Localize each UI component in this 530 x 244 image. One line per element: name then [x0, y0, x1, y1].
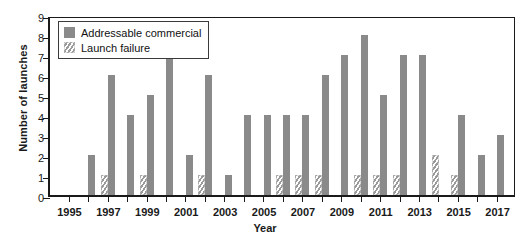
x-axis-tick	[88, 195, 89, 202]
y-axis-tick	[43, 158, 50, 159]
bar-addressable-commercial-2008	[322, 75, 329, 195]
x-axis-tick	[69, 195, 70, 202]
x-axis-tick	[497, 195, 498, 202]
y-axis-tick	[43, 58, 50, 59]
bar-launch-failure-2015	[451, 175, 458, 195]
bar-launch-failure-2006	[276, 175, 283, 195]
x-axis-tick	[147, 195, 148, 202]
y-axis-tick-label: 2	[38, 152, 44, 164]
x-axis-title: Year	[0, 222, 530, 234]
x-axis-tick-label: 1999	[135, 206, 159, 218]
y-axis-tick-label: 5	[38, 92, 44, 104]
x-axis-tick	[263, 195, 264, 202]
x-axis-tick	[341, 195, 342, 202]
bar-launch-failure-1999	[140, 175, 147, 195]
x-axis-tick	[361, 195, 362, 202]
bar-addressable-commercial-1997	[108, 75, 115, 195]
y-axis-tick	[43, 38, 50, 39]
x-axis-tick-label: 1995	[57, 206, 81, 218]
y-axis-tick	[43, 198, 50, 199]
x-axis-tick-label: 2013	[407, 206, 431, 218]
bar-launch-failure-2014	[432, 155, 439, 195]
x-axis-tick	[127, 195, 128, 202]
legend-item-addressable-commercial: Addressable commercial	[64, 25, 201, 40]
x-axis-tick-label: 2009	[330, 206, 354, 218]
x-axis-tick-label: 2011	[369, 206, 393, 218]
y-axis-tick-label: 3	[38, 132, 44, 144]
chart-legend: Addressable commercial Launch failure	[58, 21, 209, 59]
y-axis-tick	[43, 178, 50, 179]
bar-addressable-commercial-2002	[205, 75, 212, 195]
y-axis-tick-label: 6	[38, 72, 44, 84]
bar-addressable-commercial-2004	[244, 115, 251, 195]
x-axis-tick	[438, 195, 439, 202]
bar-addressable-commercial-2010	[361, 35, 368, 195]
bar-addressable-commercial-2009	[341, 55, 348, 195]
x-axis-tick	[380, 195, 381, 202]
legend-label: Launch failure	[81, 42, 150, 54]
x-axis-tick-label: 2001	[174, 206, 198, 218]
y-axis-tick	[43, 18, 50, 19]
bar-addressable-commercial-2005	[264, 115, 271, 195]
y-axis-tick-label: 7	[38, 52, 44, 64]
bar-launch-failure-2007	[295, 175, 302, 195]
bar-launch-failure-2010	[354, 175, 361, 195]
bar-addressable-commercial-2016	[478, 155, 485, 195]
x-axis-tick	[302, 195, 303, 202]
x-axis-tick-label: 2015	[446, 206, 470, 218]
x-axis-tick	[400, 195, 401, 202]
y-axis-tick-label: 0	[38, 192, 44, 204]
x-axis-tick	[458, 195, 459, 202]
bar-addressable-commercial-1999	[147, 95, 154, 195]
y-axis-tick-label: 9	[38, 12, 44, 24]
bar-addressable-commercial-1998	[127, 115, 134, 195]
x-axis-tick	[477, 195, 478, 202]
x-axis-tick	[224, 195, 225, 202]
bar-launch-failure-2012	[393, 175, 400, 195]
x-axis-tick-label: 1997	[96, 206, 120, 218]
legend-label: Addressable commercial	[81, 27, 201, 39]
y-axis-tick-label: 1	[38, 172, 44, 184]
bar-addressable-commercial-1996	[88, 155, 95, 195]
bar-addressable-commercial-2001	[186, 155, 193, 195]
bar-chart: Number of launches 012345678919951997199…	[0, 0, 530, 244]
x-axis-tick	[185, 195, 186, 202]
bar-addressable-commercial-2011	[380, 95, 387, 195]
x-axis-tick	[108, 195, 109, 202]
legend-swatch-solid-icon	[64, 27, 75, 38]
x-axis-tick-label: 2003	[213, 206, 237, 218]
bar-addressable-commercial-2013	[419, 55, 426, 195]
bar-addressable-commercial-2000	[166, 55, 173, 195]
y-axis-tick	[43, 138, 50, 139]
y-axis-tick-label: 4	[38, 112, 44, 124]
y-axis-tick	[43, 118, 50, 119]
x-axis-tick-label: 2007	[291, 206, 315, 218]
x-axis-tick	[283, 195, 284, 202]
bar-launch-failure-1997	[101, 175, 108, 195]
y-axis-tick	[43, 78, 50, 79]
y-axis-tick	[43, 98, 50, 99]
legend-item-launch-failure: Launch failure	[64, 40, 201, 55]
x-axis-tick	[205, 195, 206, 202]
x-axis-tick	[166, 195, 167, 202]
x-axis-tick-label: 2017	[485, 206, 509, 218]
x-axis-tick	[419, 195, 420, 202]
bar-launch-failure-2011	[373, 175, 380, 195]
bar-launch-failure-2008	[315, 175, 322, 195]
bar-addressable-commercial-2015	[458, 115, 465, 195]
y-axis-title: Number of launches	[17, 13, 29, 183]
y-axis-tick-label: 8	[38, 32, 44, 44]
bar-launch-failure-2002	[198, 175, 205, 195]
x-axis-tick	[244, 195, 245, 202]
bar-addressable-commercial-2007	[302, 115, 309, 195]
x-axis-tick	[322, 195, 323, 202]
bar-addressable-commercial-2012	[400, 55, 407, 195]
bar-addressable-commercial-2003	[225, 175, 232, 195]
bar-addressable-commercial-2006	[283, 115, 290, 195]
legend-swatch-hatched-icon	[64, 42, 75, 53]
bar-addressable-commercial-2017	[497, 135, 504, 195]
x-axis-tick-label: 2005	[252, 206, 276, 218]
